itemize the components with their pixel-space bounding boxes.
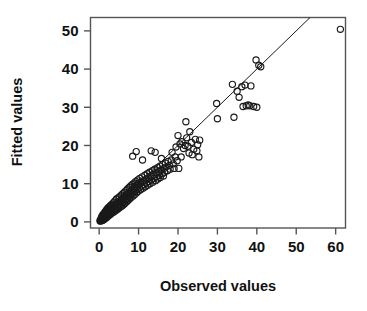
x-tick-label: 10 — [130, 238, 147, 255]
x-axis-title: Observed values — [160, 278, 276, 294]
scatter-plot-figure: 0102030405060 01020304050 Observed value… — [0, 0, 367, 311]
y-axis-title: Fitted values — [9, 78, 25, 167]
x-tick-label: 50 — [288, 238, 305, 255]
y-tick-label: 30 — [62, 99, 79, 116]
x-tick-label: 0 — [95, 238, 103, 255]
y-tick-label: 10 — [62, 175, 79, 192]
x-tick-label: 40 — [248, 238, 265, 255]
x-tick-label: 30 — [209, 238, 226, 255]
x-tick-label: 20 — [170, 238, 187, 255]
y-tick-label: 0 — [70, 213, 78, 230]
y-tick-label: 40 — [62, 60, 79, 77]
x-tick-label: 60 — [327, 238, 344, 255]
plot-canvas: 0102030405060 01020304050 Observed value… — [0, 0, 367, 311]
y-tick-label: 20 — [62, 137, 79, 154]
y-tick-label: 50 — [62, 22, 79, 39]
